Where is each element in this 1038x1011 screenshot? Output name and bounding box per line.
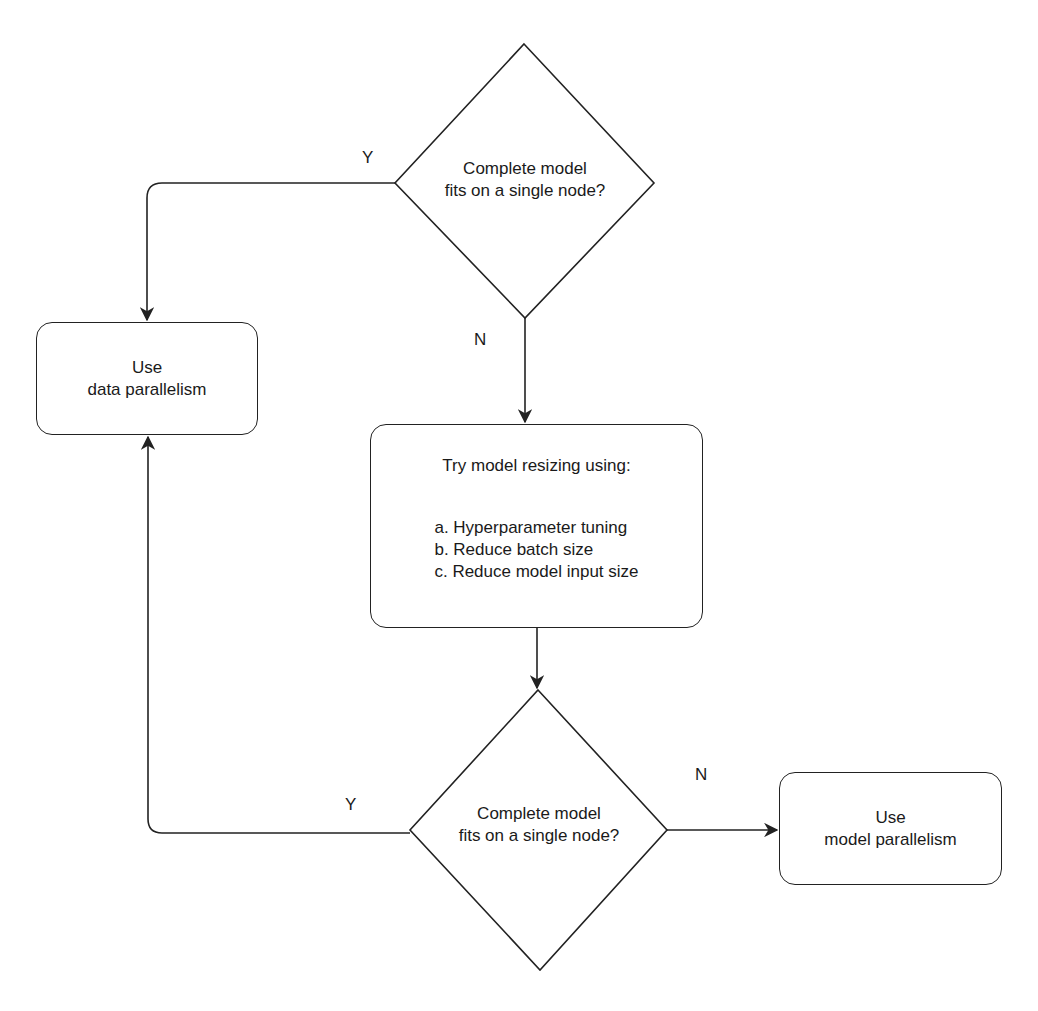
- model-parallelism-node: Use model parallelism: [779, 772, 1002, 885]
- resize-options-list: a. Hyperparameter tuning b. Reduce batch…: [434, 517, 638, 583]
- decision2-line1: Complete model: [477, 803, 601, 825]
- edge-label-yes-2: Y: [345, 795, 356, 815]
- model-parallel-line1: Use: [875, 807, 905, 829]
- decision1-line2: fits on a single node?: [445, 180, 606, 202]
- resize-node: Try model resizing using: a. Hyperparame…: [370, 424, 703, 628]
- edge-label-yes-1: Y: [362, 148, 373, 168]
- edge-decision1-yes: [147, 183, 395, 320]
- decision1-line1: Complete model: [463, 158, 587, 180]
- model-parallel-line2: model parallelism: [824, 829, 956, 851]
- data-parallelism-node: Use data parallelism: [36, 322, 258, 435]
- resize-title: Try model resizing using:: [442, 455, 630, 477]
- data-parallel-line2: data parallelism: [87, 379, 206, 401]
- data-parallel-line1: Use: [132, 357, 162, 379]
- resize-option: a. Hyperparameter tuning: [434, 517, 638, 539]
- edge-label-no-1: N: [474, 330, 486, 350]
- edge-label-no-2: N: [695, 765, 707, 785]
- resize-option: b. Reduce batch size: [434, 539, 638, 561]
- decision2-line2: fits on a single node?: [459, 825, 620, 847]
- decision1-node: Complete model fits on a single node?: [400, 150, 650, 210]
- decision2-node: Complete model fits on a single node?: [414, 795, 664, 855]
- resize-option: c. Reduce model input size: [434, 561, 638, 583]
